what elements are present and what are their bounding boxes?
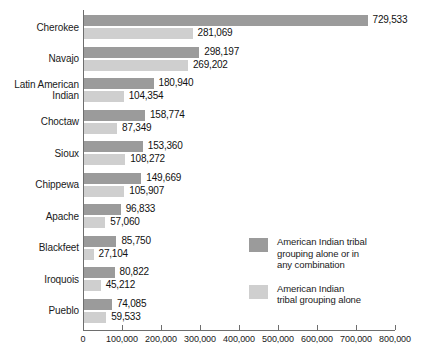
- bar-value-label: 57,060: [110, 216, 139, 228]
- bar-group: 180,940104,354: [83, 78, 395, 104]
- bar-series-1: [83, 312, 106, 323]
- bar-series-0: [83, 110, 145, 121]
- bar-series-0: [83, 267, 115, 278]
- legend-item: American Indian tribal grouping alone: [249, 283, 367, 306]
- legend-item: American Indian tribal grouping alone or…: [249, 236, 367, 271]
- bar-row: 149,669: [83, 173, 395, 184]
- bar-series-1: [83, 249, 94, 260]
- bar-row: 298,197: [83, 47, 395, 58]
- bar-value-label: 59,533: [111, 311, 140, 323]
- bar-group: 96,83357,060: [83, 204, 395, 230]
- bar-row: 108,272: [83, 154, 395, 165]
- legend-swatch: [249, 285, 268, 299]
- y-axis-line: [83, 10, 84, 330]
- x-axis-tick-label: 400,000: [223, 334, 255, 344]
- bar-value-label: 298,197: [204, 46, 239, 58]
- bar-value-label: 87,349: [122, 122, 151, 134]
- bar-series-1: [83, 186, 124, 197]
- bar-group: 153,360108,272: [83, 141, 395, 167]
- x-axis-tick: [122, 325, 123, 330]
- bar-series-0: [83, 299, 112, 310]
- x-axis-tick-label: 0: [81, 334, 86, 344]
- category-label: Apache: [0, 211, 79, 222]
- bar-row: 158,774: [83, 110, 395, 121]
- bar-group: 149,669105,907: [83, 173, 395, 199]
- category-label: Iroquois: [0, 274, 79, 285]
- bar-series-1: [83, 280, 101, 291]
- legend-swatch: [249, 238, 268, 252]
- legend-label: American Indian tribal grouping alone: [277, 283, 361, 306]
- category-label: Blackfeet: [0, 242, 79, 253]
- x-axis-tick-label: 600,000: [301, 334, 333, 344]
- bar-value-label: 104,354: [129, 90, 164, 102]
- category-label: Sioux: [0, 148, 79, 159]
- x-axis-tick-label: 700,000: [340, 334, 372, 344]
- category-label: Navajo: [0, 53, 79, 64]
- x-axis-tick: [200, 325, 201, 330]
- bar-value-label: 149,669: [146, 172, 181, 184]
- bar-value-label: 74,085: [117, 298, 146, 310]
- bar-row: 105,907: [83, 186, 395, 197]
- bar-row: 87,349: [83, 123, 395, 134]
- bar-value-label: 281,069: [198, 27, 233, 39]
- bar-row: 153,360: [83, 141, 395, 152]
- bar-value-label: 269,202: [193, 59, 228, 71]
- bar-value-label: 108,272: [130, 153, 165, 165]
- bar-value-label: 180,940: [159, 77, 194, 89]
- x-axis-tick: [83, 325, 84, 330]
- bar-chart: 729,533281,069298,197269,202180,940104,3…: [0, 0, 430, 352]
- x-axis-tick: [356, 325, 357, 330]
- category-label: Latin AmericanIndian: [0, 79, 79, 101]
- bar-value-label: 45,212: [106, 279, 135, 291]
- bar-row: 104,354: [83, 91, 395, 102]
- x-axis-tick-label: 800,000: [379, 334, 411, 344]
- bar-row: 96,833: [83, 204, 395, 215]
- bar-series-0: [83, 78, 154, 89]
- x-axis-tick: [395, 325, 396, 330]
- bar-row: 180,940: [83, 78, 395, 89]
- x-axis-tick-label: 300,000: [184, 334, 216, 344]
- category-label: Chippewa: [0, 179, 79, 190]
- bar-group: 729,533281,069: [83, 15, 395, 41]
- bar-group: 298,197269,202: [83, 47, 395, 73]
- bar-series-1: [83, 91, 124, 102]
- category-label: Pueblo: [0, 305, 79, 316]
- bar-row: 729,533: [83, 15, 395, 26]
- bar-value-label: 729,533: [373, 14, 408, 26]
- bar-value-label: 153,360: [148, 140, 183, 152]
- bar-series-1: [83, 154, 125, 165]
- x-axis-tick: [317, 325, 318, 330]
- bar-row: 57,060: [83, 217, 395, 228]
- bar-value-label: 80,822: [120, 266, 149, 278]
- legend-label: American Indian tribal grouping alone or…: [277, 236, 367, 271]
- bar-series-0: [83, 141, 143, 152]
- bar-value-label: 158,774: [150, 109, 185, 121]
- bar-series-1: [83, 123, 117, 134]
- bar-row: 281,069: [83, 28, 395, 39]
- bar-series-0: [83, 173, 141, 184]
- x-axis-tick: [161, 325, 162, 330]
- chart-legend: American Indian tribal grouping alone or…: [249, 236, 367, 318]
- x-axis-tick-label: 200,000: [145, 334, 177, 344]
- bar-value-label: 27,104: [99, 248, 128, 260]
- x-axis-line: [83, 330, 395, 331]
- bar-series-0: [83, 236, 116, 247]
- bar-value-label: 85,750: [121, 235, 150, 247]
- x-axis-tick: [239, 325, 240, 330]
- bar-series-1: [83, 28, 193, 39]
- x-axis-tick: [278, 325, 279, 330]
- category-label: Choctaw: [0, 116, 79, 127]
- bar-series-0: [83, 204, 121, 215]
- x-axis-tick-label: 100,000: [106, 334, 138, 344]
- bar-series-0: [83, 15, 368, 26]
- bar-series-1: [83, 217, 105, 228]
- bar-value-label: 105,907: [129, 185, 164, 197]
- category-label: Cherokee: [0, 22, 79, 33]
- bar-series-1: [83, 60, 188, 71]
- bar-series-0: [83, 47, 199, 58]
- bar-row: 269,202: [83, 60, 395, 71]
- bar-value-label: 96,833: [126, 203, 155, 215]
- bar-group: 158,77487,349: [83, 110, 395, 136]
- x-axis-tick-label: 500,000: [262, 334, 294, 344]
